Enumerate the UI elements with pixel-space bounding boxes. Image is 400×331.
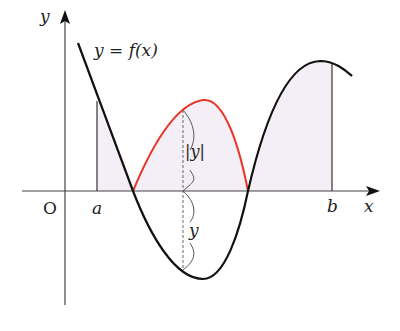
x-axis-label: x (364, 198, 374, 215)
diagram-canvas (0, 0, 400, 331)
b-label: b (327, 198, 338, 215)
diagram: y x O a b y = f(x) |y| y (0, 0, 400, 331)
origin-label: O (43, 200, 57, 217)
y-segment-label: y (189, 222, 199, 239)
function-label: y = f(x) (94, 42, 158, 59)
a-label: a (92, 200, 102, 217)
abs-y-label: |y| (185, 144, 205, 160)
y-axis-label: y (40, 8, 50, 25)
